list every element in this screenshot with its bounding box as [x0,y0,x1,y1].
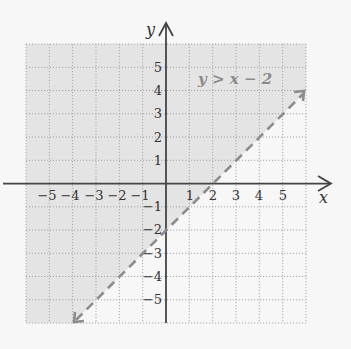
inequality-label: y > x − 2 [197,70,272,88]
x-tick: −5 [37,188,56,203]
y-tick: 1 [154,153,162,168]
x-tick: 1 [186,188,194,203]
x-tick: −4 [60,188,79,203]
y-tick: 2 [154,130,162,145]
x-axis-label: x [319,188,328,207]
y-axis-label: y [145,20,156,39]
y-tick: 5 [154,60,162,75]
y-tick: −3 [143,246,162,261]
x-tick: 2 [209,188,217,203]
x-tick: 3 [232,188,240,203]
x-tick: −2 [107,188,126,203]
y-tick: −5 [143,292,162,307]
y-tick: 4 [154,83,162,98]
y-tick: 3 [154,106,162,121]
x-tick: 4 [255,188,263,203]
y-tick: −2 [143,222,162,237]
x-tick: 5 [279,188,287,203]
y-tick: −4 [143,269,162,284]
y-tick: −1 [143,199,162,214]
inequality-graph: y x −5 −4 −3 −2 −1 1 2 3 4 5 5 4 3 2 1 −… [0,0,351,349]
x-tick: −3 [84,188,103,203]
